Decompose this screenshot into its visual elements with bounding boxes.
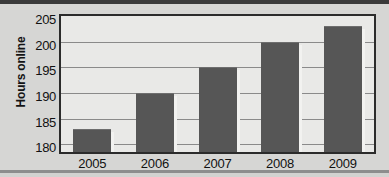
- plot-area: [59, 14, 376, 154]
- bar-series: [61, 16, 374, 152]
- y-axis-tick-180: 180: [24, 142, 56, 153]
- bar-2008[interactable]: [261, 42, 299, 152]
- y-axis-tick-190: 190: [24, 91, 56, 102]
- bar-2009[interactable]: [324, 26, 362, 152]
- x-axis-tick-2005: 2005: [61, 156, 124, 171]
- y-axis-tick-200: 200: [24, 40, 56, 51]
- scan-edge-bottom: [0, 170, 389, 173]
- chart-screenshot: Hours online 180185190195200205 20052006…: [0, 0, 389, 177]
- bar-2006[interactable]: [136, 93, 174, 152]
- bar-slot-2005: [73, 16, 111, 152]
- bar-slot-2006: [136, 16, 174, 152]
- x-axis-tick-2008: 2008: [249, 156, 312, 171]
- y-axis-tick-205: 205: [24, 14, 56, 25]
- bar-2005[interactable]: [73, 129, 111, 152]
- x-axis-tick-2009: 2009: [311, 156, 374, 171]
- y-axis-tick-185: 185: [24, 117, 56, 128]
- bar-slot-2007: [199, 16, 237, 152]
- chart-paper: Hours online 180185190195200205 20052006…: [0, 4, 389, 171]
- bar-slot-2009: [324, 16, 362, 152]
- bar-2007[interactable]: [199, 67, 237, 152]
- x-axis-tick-2006: 2006: [124, 156, 187, 171]
- x-axis-tick-2007: 2007: [186, 156, 249, 171]
- y-axis-tick-labels: 180185190195200205: [24, 12, 56, 152]
- y-axis-tick-195: 195: [24, 65, 56, 76]
- bar-slot-2008: [261, 16, 299, 152]
